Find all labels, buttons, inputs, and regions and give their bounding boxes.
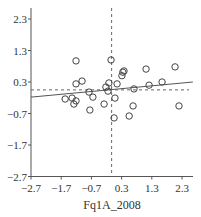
data-point [73,58,79,64]
data-point [146,82,152,88]
data-point [131,86,137,92]
x-tick-label: 2.3 [175,182,189,194]
y-tick-label: −1.7 [7,139,27,151]
x-axis-title: Fq1A_2008 [83,198,140,212]
y-tick-label: −0.7 [7,108,27,120]
data-point [143,66,149,72]
axes: 2.31.30.3−0.7−1.7−2.7−2.7−1.7−0.70.31.32… [7,8,193,194]
data-point [126,113,132,119]
data-point [130,103,136,109]
data-point [114,81,120,87]
data-point [101,101,107,107]
data-point [108,57,114,63]
y-tick-label: 2.3 [13,13,27,25]
data-point [176,103,182,109]
y-tick-label: 0.3 [13,76,27,88]
x-tick-label: −2.7 [21,182,41,194]
data-point [79,78,85,84]
x-tick-label: −1.7 [51,182,71,194]
data-point [172,64,178,70]
data-point [159,79,165,85]
data-point [87,107,93,113]
scatter-chart: 2.31.30.3−0.7−1.7−2.7−2.7−1.7−0.70.31.32… [0,0,201,217]
x-tick-label: 0.3 [115,182,129,194]
data-point [90,94,96,100]
data-point [62,96,68,102]
data-point [73,81,79,87]
x-tick-label: −0.7 [81,182,101,194]
x-tick-label: 1.3 [145,182,159,194]
reference-lines [31,8,189,177]
y-tick-label: 1.3 [13,45,27,57]
data-point [112,95,118,101]
